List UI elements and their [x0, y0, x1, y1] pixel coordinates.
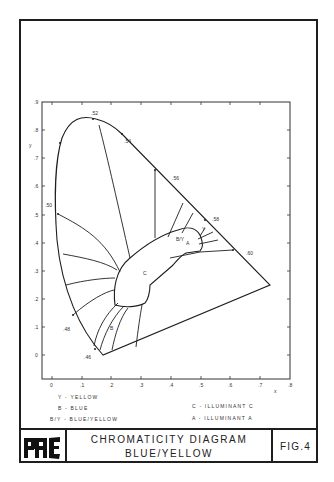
axis-ticks — [42, 102, 290, 379]
wavelength-dots — [57, 118, 234, 350]
pac-logo-icon — [23, 434, 61, 460]
svg-text:.6: .6 — [34, 183, 38, 189]
svg-text:.7: .7 — [34, 155, 38, 161]
svg-text:y: y — [29, 142, 32, 148]
svg-text:C: C — [143, 270, 147, 276]
svg-text:.4: .4 — [169, 382, 173, 388]
legend-illuminant-c: C - ILLUMINANT C — [192, 403, 254, 409]
svg-text:.60: .60 — [246, 250, 253, 256]
title-line-1: CHROMATICITY DIAGRAM — [91, 433, 248, 447]
svg-text:.48: .48 — [63, 326, 70, 332]
svg-text:0: 0 — [35, 352, 38, 358]
svg-text:.2: .2 — [34, 296, 38, 302]
svg-text:.4: .4 — [34, 240, 38, 246]
svg-text:.1: .1 — [80, 382, 84, 388]
legend-blue: B - BLUE — [58, 405, 88, 411]
svg-text:0: 0 — [50, 382, 53, 388]
svg-text:Y: Y — [202, 226, 206, 232]
title-line-2: BLUE/YELLOW — [125, 447, 213, 461]
legend-blue-yellow: B/Y - BLUE/YELLOW — [50, 416, 118, 422]
svg-text:A: A — [186, 240, 190, 246]
title-block: CHROMATICITY DIAGRAM BLUE/YELLOW FIG.4 — [19, 428, 318, 463]
legend-illuminant-a: A - ILLUMINANT A — [192, 415, 253, 421]
svg-text:.3: .3 — [139, 382, 143, 388]
svg-text:x: x — [274, 388, 277, 394]
svg-text:.3: .3 — [34, 268, 38, 274]
svg-text:.9: .9 — [34, 99, 38, 105]
svg-text:.6: .6 — [228, 382, 232, 388]
svg-text:B: B — [110, 325, 114, 331]
svg-text:.58: .58 — [212, 216, 219, 222]
svg-text:.7: .7 — [258, 382, 262, 388]
svg-text:.5: .5 — [34, 212, 38, 218]
svg-text:.56: .56 — [172, 175, 179, 181]
logo — [19, 430, 67, 463]
svg-text:.54: .54 — [124, 138, 131, 144]
svg-text:.5: .5 — [199, 382, 203, 388]
plot-frame — [42, 102, 290, 379]
legend-yellow: Y - YELLOW — [58, 394, 98, 400]
title-cell: CHROMATICITY DIAGRAM BLUE/YELLOW — [67, 430, 273, 463]
svg-text:B/Y: B/Y — [176, 236, 185, 242]
svg-text:.50: .50 — [45, 202, 52, 208]
chromaticity-diagram: 0.1.2 .3.4.5 .6.7.8 x 0.1.2 .3.4.5 .6.7.… — [0, 0, 334, 482]
svg-text:.46: .46 — [84, 354, 91, 360]
svg-text:.2: .2 — [109, 382, 113, 388]
svg-text:.8: .8 — [34, 127, 38, 133]
svg-text:.8: .8 — [288, 382, 292, 388]
tick-labels: 0.1.2 .3.4.5 .6.7.8 x 0.1.2 .3.4.5 .6.7.… — [29, 99, 292, 394]
svg-text:.52: .52 — [91, 110, 98, 116]
svg-text:.1: .1 — [34, 324, 38, 330]
figure-number: FIG.4 — [273, 430, 318, 463]
wavelength-labels: .52.54.56 .58.60.50 .48.46 — [45, 110, 253, 360]
